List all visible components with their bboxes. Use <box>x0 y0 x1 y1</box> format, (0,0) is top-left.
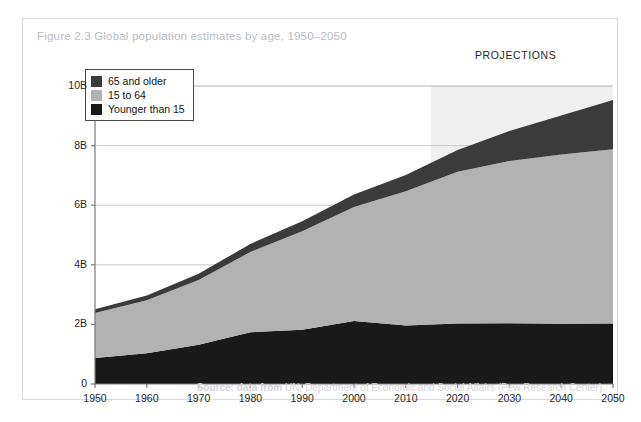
x-tick-label-1980: 1980 <box>230 392 270 404</box>
legend-swatch-working <box>91 90 102 101</box>
x-tick-label-2030: 2030 <box>489 392 529 404</box>
legend-label-younger: Younger than 15 <box>108 103 185 115</box>
source-rest: UN, Department of Economic and Social Af… <box>282 382 605 393</box>
x-tick-label-2040: 2040 <box>541 392 581 404</box>
legend-item-younger: Younger than 15 <box>91 102 185 116</box>
x-tick-label-1970: 1970 <box>179 392 219 404</box>
x-tick-label-2020: 2020 <box>438 392 478 404</box>
source-note: Source: data from UN, Department of Econ… <box>23 382 605 393</box>
x-tick-label-1990: 1990 <box>282 392 322 404</box>
figure-container: Figure 2.3 Global population estimates b… <box>22 18 618 400</box>
y-tick-label-8: 8B <box>53 139 87 151</box>
y-tick-label-4: 4B <box>53 258 87 270</box>
y-tick-label-6: 6B <box>53 198 87 210</box>
legend-swatch-younger <box>91 104 102 115</box>
legend-label-older: 65 and older <box>108 75 166 87</box>
y-tick-label-10: 10B <box>53 79 87 91</box>
x-tick-label-1950: 1950 <box>75 392 115 404</box>
chart-legend: 65 and older 15 to 64 Younger than 15 <box>85 69 194 121</box>
legend-swatch-older <box>91 76 102 87</box>
x-tick-label-2050: 2050 <box>593 392 633 404</box>
chart-plot-area: PROJECTIONS 65 and older 15 to 64 Younge… <box>23 19 619 401</box>
projections-annotation: PROJECTIONS <box>475 49 556 61</box>
x-tick-label-2010: 2010 <box>386 392 426 404</box>
source-prefix: Source: data from <box>197 382 283 393</box>
y-tick-label-2: 2B <box>53 317 87 329</box>
x-tick-label-1960: 1960 <box>127 392 167 404</box>
legend-item-older: 65 and older <box>91 74 185 88</box>
x-tick-label-2000: 2000 <box>334 392 374 404</box>
legend-item-working: 15 to 64 <box>91 88 185 102</box>
legend-label-working: 15 to 64 <box>108 89 146 101</box>
